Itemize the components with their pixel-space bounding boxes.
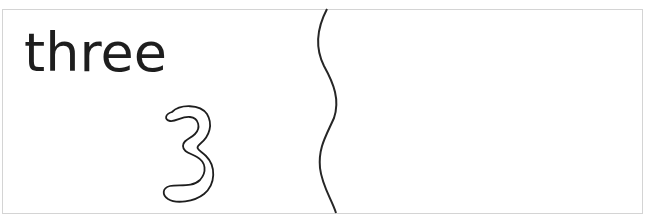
numeral-3-outline [164,106,214,201]
wavy-cut-line [318,9,336,213]
